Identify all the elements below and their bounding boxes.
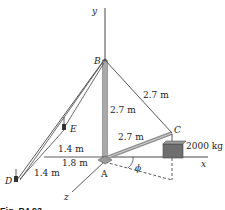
point-c-label: C — [174, 125, 181, 135]
anchor-d — [14, 176, 18, 182]
dim-bc-label: 2.7 m — [143, 90, 169, 100]
load-box — [163, 144, 183, 158]
y-axis-label: y — [91, 6, 98, 16]
point-d-label: D — [4, 176, 12, 186]
cable-be — [64, 63, 104, 128]
mast-ab — [103, 60, 108, 160]
dim-ac-label: 2.7 m — [118, 132, 144, 142]
z-axis-label: z — [63, 192, 69, 202]
point-e-label: E — [69, 124, 77, 134]
statics-diagram: y x z B A C D E ϕ 2.7 m 2.7 m 2.7 m 1.4 … — [0, 0, 225, 210]
cable-bd — [17, 60, 104, 180]
anchor-e — [62, 124, 66, 130]
angle-phi-label: ϕ — [135, 163, 141, 173]
dim-e-offset-label: 1.4 m — [58, 144, 84, 154]
point-b-label: B — [93, 56, 101, 66]
load-label: 2000 kg — [186, 141, 223, 151]
dim-1-8-label: 1.8 m — [62, 158, 88, 168]
load-box-top — [163, 141, 186, 144]
figure-caption: Fig. P4.93 — [0, 206, 42, 210]
angle-arc — [128, 157, 133, 168]
x-axis-label: x — [201, 159, 206, 169]
joint-b — [103, 58, 106, 61]
dim-d-offset-label: 1.4 m — [34, 168, 60, 178]
dim-ab-label: 2.7 m — [110, 105, 136, 115]
point-a-label: A — [100, 169, 108, 179]
